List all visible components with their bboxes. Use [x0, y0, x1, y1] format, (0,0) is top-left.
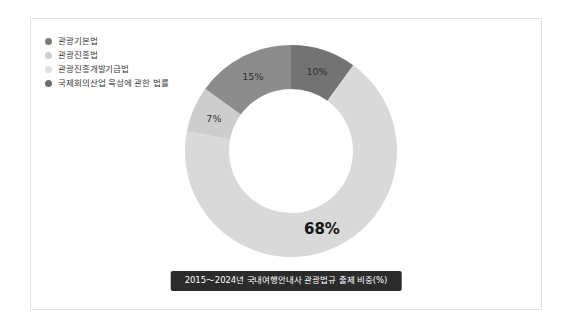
donut-slice-label: 15% — [242, 71, 263, 82]
legend-item-label: 관광기본법 — [58, 34, 98, 48]
circle-dot-icon — [45, 52, 52, 59]
circle-dot-icon — [45, 66, 52, 73]
chart-card: 관광기본법관광진흥법관광진흥개발기금법국제회의산업 육성에 관한 법률 10%6… — [30, 18, 542, 310]
donut-slice-label: 10% — [306, 66, 327, 77]
donut-chart: 10%68%7%15% — [183, 43, 399, 259]
donut-slice-label: 7% — [206, 112, 221, 123]
circle-dot-icon — [45, 80, 52, 87]
circle-dot-icon — [45, 38, 52, 45]
donut-chart-svg — [183, 43, 399, 259]
chart-caption: 2015～2024년 국내여행안내사 관광법규 출제 비중(%) — [171, 271, 402, 291]
donut-slice-label: 68% — [304, 220, 340, 238]
legend-item-label: 국제회의산업 육성에 관한 법률 — [58, 76, 169, 90]
legend-item-label: 관광진흥개발기금법 — [58, 62, 129, 76]
legend-item-label: 관광진흥법 — [58, 48, 98, 62]
